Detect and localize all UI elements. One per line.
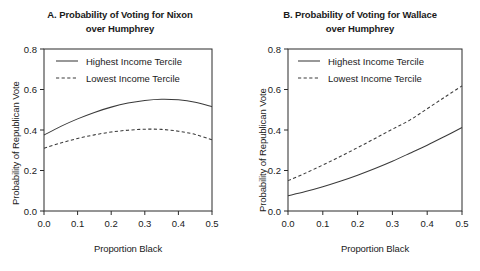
panel-b-plot: 0.0 0.2 0.4 0.6 0.8 0.0 0.1 0.2 0.3 0.4 … [240, 0, 480, 271]
panel-a-xtick-3: 0.3 [138, 218, 151, 229]
panel-a-xtick-2: 0.2 [105, 218, 118, 229]
panel-a-plot: 0.0 0.2 0.4 0.6 0.8 0.0 0.1 0.2 0.3 0.4 … [0, 0, 240, 271]
panel-b-y-ticks: 0.0 0.2 0.4 0.6 0.8 [268, 44, 288, 217]
panel-b-legend-label-highest: Highest Income Tercile [328, 56, 424, 67]
panel-b-x-ticks: 0.0 0.1 0.2 0.3 0.4 0.5 [281, 211, 468, 229]
panel-b-ytick-1: 0.2 [268, 165, 281, 176]
panel-b-legend: Highest Income Tercile Lowest Income Ter… [298, 56, 424, 84]
panel-a-ytick-1: 0.2 [24, 165, 37, 176]
panel-b-xtick-2: 0.2 [351, 218, 364, 229]
panel-b-x-axis-label: Proportion Black [288, 243, 462, 254]
panel-a-legend-label-highest: Highest Income Tercile [86, 56, 182, 67]
panel-a-x-axis-label: Proportion Black [44, 243, 212, 254]
panel-a-xtick-4: 0.4 [172, 218, 185, 229]
panel-a-x-ticks: 0.0 0.1 0.2 0.3 0.4 0.5 [37, 211, 218, 229]
panel-a-series-lowest [44, 129, 212, 148]
panel-a-xtick-5: 0.5 [205, 218, 218, 229]
panel-b-xtick-5: 0.5 [455, 218, 468, 229]
panel-a-y-ticks: 0.0 0.2 0.4 0.6 0.8 [24, 44, 44, 217]
panel-b-xtick-4: 0.4 [421, 218, 434, 229]
panel-a-legend-label-lowest: Lowest Income Tercile [86, 73, 180, 84]
panel-b: B. Probability of Voting for Wallace ove… [240, 0, 480, 271]
panel-b-ytick-2: 0.4 [268, 125, 281, 136]
panel-a-xtick-0: 0.0 [37, 218, 50, 229]
panel-a-xtick-1: 0.1 [71, 218, 84, 229]
panel-b-legend-label-lowest: Lowest Income Tercile [328, 73, 422, 84]
panel-a-ytick-0: 0.0 [24, 206, 37, 217]
panel-b-ytick-4: 0.8 [268, 44, 281, 55]
figure-two-panel-chart: A. Probability of Voting for Nixon over … [0, 0, 480, 271]
panel-b-xtick-0: 0.0 [281, 218, 294, 229]
panel-b-series-lowest [288, 86, 462, 181]
panel-a-ytick-2: 0.4 [24, 125, 37, 136]
panel-a-ytick-3: 0.6 [24, 84, 37, 95]
panel-a-ytick-4: 0.8 [24, 44, 37, 55]
panel-b-xtick-1: 0.1 [316, 218, 329, 229]
panel-b-xtick-3: 0.3 [386, 218, 399, 229]
panel-b-ytick-0: 0.0 [268, 206, 281, 217]
panel-b-series-highest [288, 128, 462, 196]
panel-a-legend: Highest Income Tercile Lowest Income Ter… [56, 56, 182, 84]
panel-a: A. Probability of Voting for Nixon over … [0, 0, 240, 271]
panel-b-ytick-3: 0.6 [268, 84, 281, 95]
